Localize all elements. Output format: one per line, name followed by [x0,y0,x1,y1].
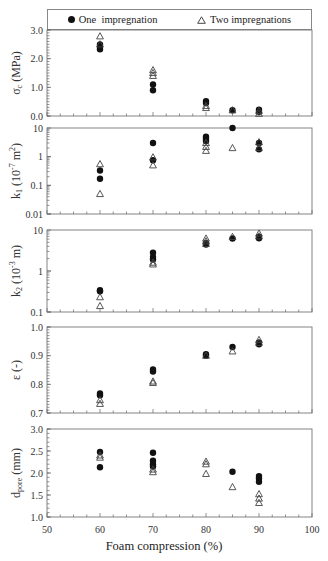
y-tick-label: 3.0 [31,424,44,435]
plot-frame [47,128,312,214]
y-tick-label: 1 [38,151,43,162]
y-tick-label: 1.0 [31,512,44,523]
panel-5: 1.01.52.02.53.0dpore (mm) [9,424,312,523]
data-point-two-impregnations [229,483,236,489]
panel-4: 0.70.80.91.0ε (-) [9,322,312,419]
y-axis-label: ε (-) [9,360,23,380]
data-point-two-impregnations [97,33,104,39]
y-tick-label: 1.0 [31,322,44,333]
y-tick-label: 10 [33,123,43,134]
data-point-one-impregnation [150,81,156,87]
x-tick-label: 50 [42,524,52,535]
data-point-two-impregnations [150,154,157,160]
y-axis-label: k1 (10-7 m2) [8,143,24,199]
panel-2: 0.010.1110k1 (10-7 m2) [8,123,312,220]
x-tick-label: 60 [95,524,105,535]
plot-frame [47,30,312,116]
y-tick-label: 0.7 [31,408,44,419]
data-point-one-impregnation [97,464,103,470]
y-tick-label: 2.0 [31,53,44,64]
data-point-one-impregnation [150,140,156,146]
y-tick-label: 3.0 [31,25,44,36]
plot-frame [47,230,312,312]
data-point-two-impregnations [97,161,104,167]
x-axis-label: Foam compression (%) [0,539,328,554]
x-tick-label: 90 [254,524,264,535]
data-point-one-impregnation [150,450,156,456]
y-tick-label: 2.5 [31,446,44,457]
data-point-one-impregnation [150,368,156,374]
data-point-one-impregnation [229,468,235,474]
y-tick-label: 0.9 [31,350,44,361]
plots-canvas: 0.01.02.03.0σc (MPa)0.010.1110k1 (10-7 m… [0,0,328,561]
y-tick-label: 0.0 [31,111,44,122]
y-tick-label: 0.01 [26,209,44,220]
y-tick-label: 0.8 [31,379,44,390]
y-axis-label: dpore (mm) [9,448,24,498]
data-point-two-impregnations [150,162,157,168]
data-point-two-impregnations [97,302,104,308]
y-tick-label: 10 [33,225,43,236]
y-tick-label: 1 [38,266,43,277]
data-point-two-impregnations [229,233,236,239]
figure: One impregnation Two impregnations 0.01.… [0,0,328,561]
x-tick-label: 70 [148,524,158,535]
y-tick-label: 0.1 [31,307,44,318]
y-axis-label: σc (MPa) [9,51,24,95]
y-tick-label: 1.5 [31,490,44,501]
y-tick-label: 0.1 [31,180,44,191]
data-point-two-impregnations [97,294,104,300]
data-point-one-impregnation [229,125,235,131]
data-point-two-impregnations [229,144,236,150]
data-point-one-impregnation [150,87,156,93]
plot-frame [47,429,312,517]
data-point-two-impregnations [203,470,210,476]
data-point-one-impregnation [97,176,103,182]
y-tick-label: 1.0 [31,82,44,93]
panel-1: 0.01.02.03.0σc (MPa) [9,25,312,122]
data-point-one-impregnation [256,479,262,485]
data-point-two-impregnations [97,190,104,196]
y-tick-label: 2.0 [31,468,44,479]
x-tick-label: 80 [201,524,211,535]
x-tick-label: 100 [305,524,320,535]
panel-3: 0.1110k2 (10-3 m) [8,225,312,318]
y-axis-label: k2 (10-3 m) [8,245,24,297]
data-point-one-impregnation [97,167,103,173]
plot-frame [47,327,312,413]
